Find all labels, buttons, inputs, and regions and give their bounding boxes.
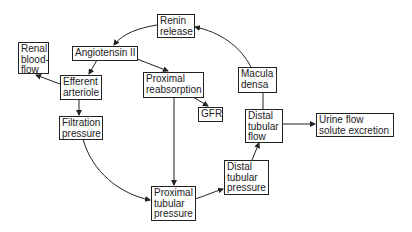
node-label-line: Efferent [63, 77, 99, 88]
node-label-line: Proximal [154, 188, 193, 199]
node-label-line: release [160, 27, 192, 38]
edge-reabsorption-to-gfr [193, 97, 208, 106]
node-renin-release: Renin release [157, 14, 195, 38]
node-filtration-pressure: Filtration pressure [59, 116, 103, 140]
node-macula-densa: Macula densa [238, 67, 277, 93]
edge-angiotensin-to-efferent [89, 60, 97, 74]
node-label-line: reabsorption [146, 85, 201, 96]
node-label-line: pressure [154, 209, 193, 220]
node-label-line: Filtration [62, 118, 100, 129]
node-label-line: densa [241, 80, 274, 91]
edge-ptp-to-dtp [195, 189, 223, 199]
edge-macula-to-renin [195, 27, 251, 67]
edge-angiotensin-to-reabsorption [137, 59, 168, 71]
node-label-line: Proximal [146, 74, 201, 85]
node-label-line: flow [21, 65, 46, 76]
node-label-line: Urine flow [319, 115, 391, 126]
edge-efferent-to-renal [36, 75, 60, 84]
node-distal-tubular-flow: Distal tubular flow [245, 109, 283, 143]
node-label-line: Renal [21, 44, 46, 55]
edge-dtp-to-dtf [252, 143, 259, 160]
node-label-line: pressure [62, 129, 100, 140]
node-proximal-reabsorption: Proximal reabsorption [143, 72, 204, 98]
node-label-line: Angiotensin II [75, 48, 135, 59]
node-distal-tubular-pressure: Distal tubular pressure [224, 160, 269, 195]
node-label-line: pressure [227, 183, 266, 194]
edge-filtration-to-ptp [83, 139, 150, 200]
node-label-line: arteriole [63, 88, 99, 99]
node-renal-blood-flow: Renal blood- flow [18, 42, 49, 74]
node-efferent-arteriole: Efferent arteriole [60, 75, 102, 100]
node-label-line: Distal [227, 162, 266, 173]
node-label-line: Distal [248, 111, 280, 122]
node-proximal-tubular-pressure: Proximal tubular pressure [151, 186, 196, 221]
node-label-line: Renin [160, 16, 192, 27]
node-urine-flow-solute-excretion: Urine flow solute excretion [316, 113, 394, 137]
node-label-line: GFR [201, 109, 220, 120]
node-gfr: GFR [198, 107, 223, 122]
node-angiotensin-ii: Angiotensin II [72, 46, 138, 61]
edge-renin-to-angiotensin [114, 25, 157, 45]
node-label-line: Macula [241, 69, 274, 80]
node-label-line: solute excretion [319, 126, 391, 137]
diagram-canvas: Renin release Angiotensin II Renal blood… [0, 0, 412, 232]
node-label-line: flow [248, 132, 280, 143]
